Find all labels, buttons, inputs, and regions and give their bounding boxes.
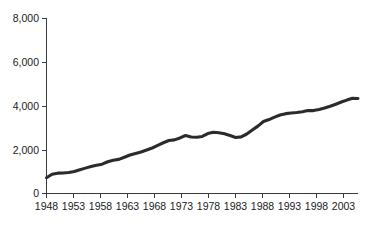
x-tick-label-1958: 1958 xyxy=(89,200,113,212)
x-tick-label-1948: 1948 xyxy=(35,200,59,212)
data-series-line xyxy=(47,98,359,177)
y-tick-label-0: 0 xyxy=(33,187,39,199)
x-tick-marks xyxy=(47,194,344,199)
x-tick-label-1998: 1998 xyxy=(305,200,329,212)
y-tick-labels: 8,000 6,000 4,000 2,000 0 xyxy=(13,12,39,199)
x-tick-label-1973: 1973 xyxy=(170,200,194,212)
x-tick-label-2003: 2003 xyxy=(332,200,356,212)
x-tick-label-1953: 1953 xyxy=(62,200,86,212)
x-tick-labels: 1948 1953 1958 1963 1968 1973 1978 1983 … xyxy=(35,200,356,212)
x-tick-label-1983: 1983 xyxy=(224,200,248,212)
y-tick-label-8000: 8,000 xyxy=(13,12,39,24)
chart-canvas: 8,000 6,000 4,000 2,000 0 1948 1953 1958 xyxy=(0,0,366,231)
x-tick-label-1963: 1963 xyxy=(116,200,140,212)
line-chart: 8,000 6,000 4,000 2,000 0 1948 1953 1958 xyxy=(0,0,366,231)
x-tick-label-1968: 1968 xyxy=(143,200,167,212)
y-tick-label-6000: 6,000 xyxy=(13,56,39,68)
x-tick-label-1988: 1988 xyxy=(251,200,275,212)
y-tick-label-2000: 2,000 xyxy=(13,144,39,156)
y-tick-marks xyxy=(42,19,47,194)
y-tick-label-4000: 4,000 xyxy=(13,100,39,112)
x-tick-label-1978: 1978 xyxy=(197,200,221,212)
x-tick-label-1993: 1993 xyxy=(278,200,302,212)
